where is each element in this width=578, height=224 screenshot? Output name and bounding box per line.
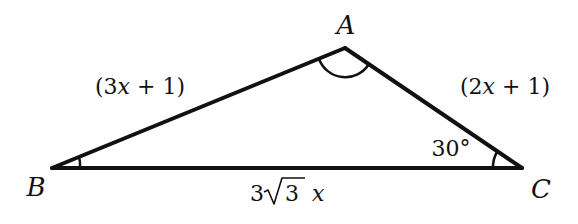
vertex-a-label: A [335, 10, 356, 40]
angle-a-arc [319, 59, 369, 77]
side-bc-label: 3 3 x [250, 178, 325, 206]
side-ab [52, 48, 345, 168]
side-ab-label: (3x + 1) [95, 74, 185, 99]
angle-c-label: 30° [432, 136, 471, 161]
side-bc-radicand: 3 [285, 181, 299, 206]
triangle-diagram: A B C (3x + 1) (2x + 1) 30° 3 3 x [0, 0, 578, 224]
angle-c-arc [493, 152, 497, 168]
vertex-c-label: C [531, 174, 551, 204]
side-ac-label: (2x + 1) [460, 74, 550, 99]
vertex-b-label: B [25, 172, 45, 202]
side-bc-var: x [312, 181, 325, 206]
side-bc-coef: 3 [250, 181, 264, 206]
angle-b-arc [79, 157, 80, 168]
